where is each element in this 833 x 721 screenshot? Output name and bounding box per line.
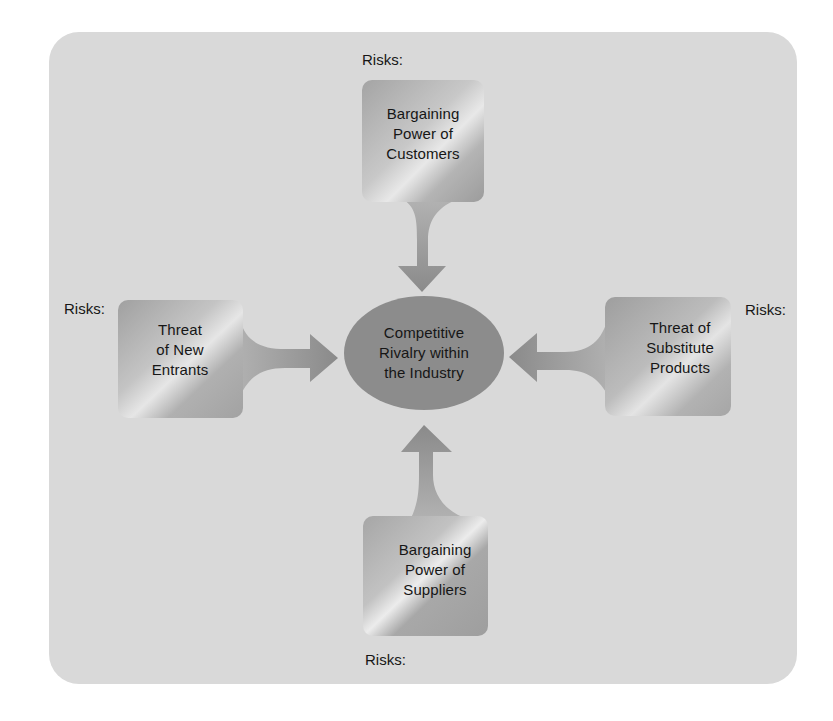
customers-risks-label: Risks: [362,51,403,69]
competitive-rivalry-label: Competitive Rivalry within the Industry [364,323,484,383]
customers-arrow [398,200,456,292]
new-entrants-label: Threat of New Entrants [140,320,220,380]
substitutes-label: Threat of Substitute Products [625,318,735,378]
suppliers-force-shape [363,425,488,636]
substitutes-risks-label: Risks: [745,301,786,319]
suppliers-arrow [401,425,470,520]
suppliers-label: Bargaining Power of Suppliers [375,540,495,600]
new-entrants-risks-label: Risks: [64,300,105,318]
new-entrants-arrow [240,320,338,396]
customers-label: Bargaining Power of Customers [362,104,484,164]
substitutes-arrow [509,318,608,396]
suppliers-risks-label: Risks: [365,651,406,669]
